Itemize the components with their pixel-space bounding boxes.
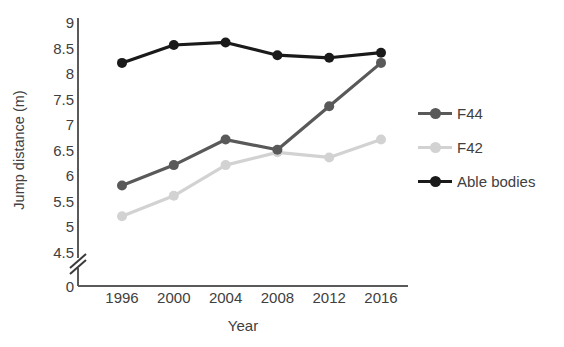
legend-label: Able bodies <box>457 173 535 190</box>
data-point <box>324 101 334 111</box>
legend-item-f42[interactable]: F42 <box>418 130 558 164</box>
data-point <box>221 160 231 170</box>
line-chart: Jump distance (m) 04.555.566.577.588.59 … <box>0 0 564 347</box>
legend-marker-icon <box>418 106 452 120</box>
data-point <box>221 37 231 47</box>
series-line-able-bodies <box>122 42 381 62</box>
legend-item-able-bodies[interactable]: Able bodies <box>418 164 558 198</box>
legend-item-f44[interactable]: F44 <box>418 96 558 130</box>
legend-label: F42 <box>457 139 483 156</box>
data-point <box>169 191 179 201</box>
data-point <box>117 211 127 221</box>
series-line-f42 <box>122 140 381 217</box>
data-point <box>272 50 282 60</box>
data-point <box>272 145 282 155</box>
data-point <box>117 58 127 68</box>
data-series-layer <box>117 37 386 221</box>
legend: F44F42Able bodies <box>418 96 558 198</box>
data-point <box>376 48 386 58</box>
series-line-f44 <box>122 63 381 186</box>
data-point <box>324 152 334 162</box>
legend-marker-icon <box>418 140 452 154</box>
legend-label: F44 <box>457 105 483 122</box>
data-point <box>221 135 231 145</box>
legend-marker-icon <box>418 174 452 188</box>
data-point <box>324 53 334 63</box>
data-point <box>169 40 179 50</box>
data-point <box>169 160 179 170</box>
data-point <box>376 58 386 68</box>
data-point <box>117 181 127 191</box>
data-point <box>376 135 386 145</box>
